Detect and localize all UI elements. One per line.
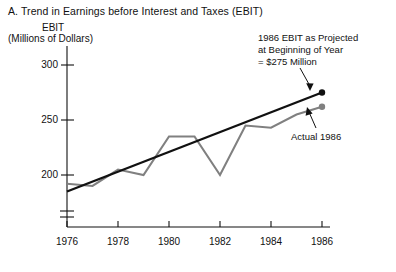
ebit-trend-chart: A. Trend in Earnings before Interest and… (0, 0, 396, 272)
series-actual-ebit (67, 107, 322, 186)
data-point-actual-1986 (319, 104, 325, 110)
data-point-projected-1986 (319, 89, 325, 95)
series-trend-line (67, 93, 322, 192)
chart-plot-area (0, 0, 396, 272)
leader-line-projected (300, 68, 314, 91)
